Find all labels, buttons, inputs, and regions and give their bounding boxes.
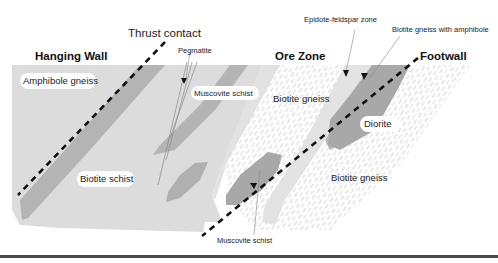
- biotite-gneiss-amphibole-label: Biotite gneiss with amphibole: [392, 25, 489, 34]
- bottom-divider: [0, 255, 498, 258]
- cross-section-diagram: Hanging Wall Ore Zone Footwall Thrust co…: [0, 0, 498, 263]
- hanging-wall-label: Hanging Wall: [35, 50, 107, 62]
- epidote-feldspar-zone-label: Epidote-feldspar zone: [304, 15, 377, 24]
- muscovite-schist-lower-label: Muscovite schist: [217, 236, 273, 245]
- amphibole-gneiss-label: Amphibole gneiss: [23, 75, 98, 86]
- biotite-schist-label: Biotite schist: [80, 173, 134, 184]
- biotite-gneiss-ore-label: Biotite gneiss: [273, 93, 330, 104]
- ore-zone-label: Ore Zone: [275, 50, 325, 62]
- pegmatite-label: Pegmatite: [178, 46, 212, 55]
- diorite-label: Diorite: [364, 118, 391, 129]
- thrust-contact-label: Thrust contact: [128, 27, 202, 39]
- footwall-label: Footwall: [420, 50, 467, 62]
- muscovite-schist-upper-label: Muscovite schist: [194, 89, 253, 98]
- biotite-gneiss-footwall-label: Biotite gneiss: [331, 172, 388, 183]
